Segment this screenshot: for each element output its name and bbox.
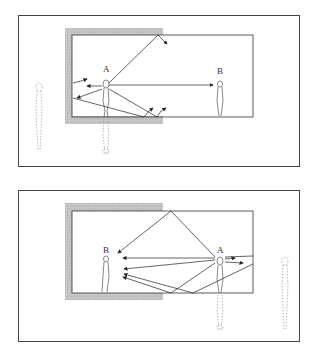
mirror-image-figure-right xyxy=(282,257,288,329)
diagram-panel-top: A B xyxy=(18,15,300,167)
speaker-figure-a xyxy=(103,80,109,117)
room-outline xyxy=(72,211,253,293)
label-listener-b: B xyxy=(217,66,223,76)
listener-figure-b xyxy=(217,81,223,116)
diagram-panel-bottom: B A xyxy=(18,190,300,342)
absorptive-wall-shading xyxy=(65,28,163,124)
mirror-image-figure-below xyxy=(103,119,109,154)
mirror-image-figure-left xyxy=(36,83,42,151)
listener-figure-b xyxy=(102,256,109,292)
label-speaker-a: A xyxy=(103,64,110,74)
label-listener-b: B xyxy=(103,245,109,255)
mirror-image-figure-below xyxy=(217,295,223,330)
top-diagram-svg: A B xyxy=(19,16,301,168)
bottom-diagram-svg: B A xyxy=(19,191,301,343)
speaker-figure-a xyxy=(217,257,223,293)
label-speaker-a: A xyxy=(217,245,224,255)
